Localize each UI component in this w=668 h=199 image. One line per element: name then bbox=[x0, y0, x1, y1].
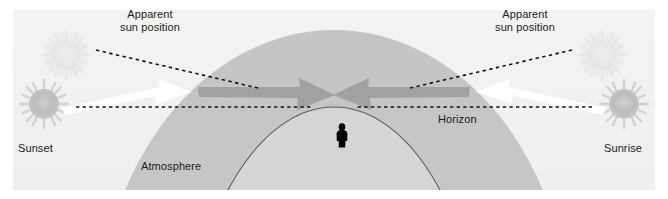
label-sunset: Sunset bbox=[18, 142, 53, 155]
label-sunrise: Sunrise bbox=[604, 142, 642, 155]
label-apparent-sun-left: Apparent sun position bbox=[95, 8, 205, 34]
bottom-trim bbox=[0, 190, 668, 199]
label-atmosphere: Atmosphere bbox=[141, 160, 201, 173]
sun-apparent-left bbox=[42, 31, 90, 79]
label-horizon: Horizon bbox=[438, 113, 477, 126]
sun-actual-right bbox=[600, 80, 648, 128]
sun-apparent-right bbox=[578, 31, 626, 79]
label-apparent-sun-right: Apparent sun position bbox=[470, 8, 580, 34]
refraction-diagram: Apparent sun position Apparent sun posit… bbox=[0, 0, 668, 199]
sun-actual-left bbox=[20, 80, 68, 128]
